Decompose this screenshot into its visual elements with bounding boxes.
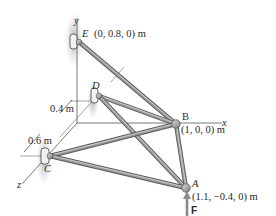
coord-label-b: (1, 0, 0) m xyxy=(181,124,225,136)
dimension-label-06: 0.6 m xyxy=(28,135,52,146)
axis-label-z: z xyxy=(16,179,21,190)
dimension-label-04: 0.4 m xyxy=(50,103,74,114)
force-label-f: F xyxy=(191,205,197,216)
joint-a xyxy=(182,184,190,192)
point-label-d: D xyxy=(91,80,100,91)
point-label-e: E xyxy=(81,28,89,39)
axis-label-y: y xyxy=(73,15,79,26)
coord-label-a: (1.1, −0.4, 0) m xyxy=(192,191,258,203)
member-ca xyxy=(50,156,186,188)
member-cb-highlight xyxy=(50,123,176,155)
point-label-c: C xyxy=(44,163,52,174)
joint-b xyxy=(172,120,180,128)
point-label-a: A xyxy=(191,178,199,189)
member-ca-highlight xyxy=(50,155,186,187)
point-label-b: B xyxy=(182,111,189,122)
truss-diagram: y x z E (0, 0.8, 0) m D B (1, 0, 0) m C … xyxy=(0,0,276,216)
coord-label-e: (0, 0.8, 0) m xyxy=(94,28,146,40)
member-cb xyxy=(50,124,176,156)
